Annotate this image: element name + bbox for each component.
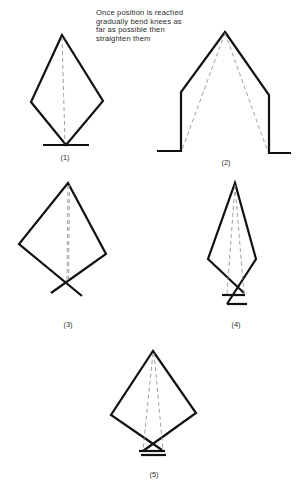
figure-label-1: (1) — [60, 153, 69, 162]
figure-label-4: (4) — [231, 320, 240, 329]
instruction-caption: Once position is reached gradually bend … — [96, 9, 196, 43]
caption-line: straighten them — [96, 35, 196, 44]
figure-1-kite — [31, 35, 103, 145]
figure-label-5: (5) — [149, 470, 158, 479]
figure-label-3: (3) — [63, 320, 72, 329]
figure-3-crossed-kite — [19, 183, 106, 296]
figure-5-kite — [111, 351, 196, 455]
figure-4-narrow-kite — [208, 183, 256, 304]
exercise-diagram — [0, 0, 306, 491]
figure-label-2: (2) — [221, 158, 230, 167]
figure-2-arch — [157, 32, 291, 153]
